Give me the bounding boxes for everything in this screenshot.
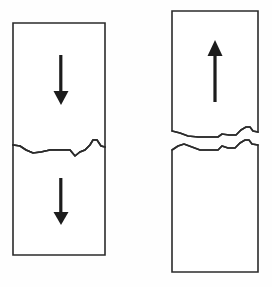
right-specimen-lower-piece — [172, 140, 258, 272]
fracture-diagram-svg — [0, 0, 272, 287]
right-specimen — [172, 11, 258, 272]
left-specimen — [13, 23, 105, 255]
up-arrow-shaft — [213, 52, 216, 102]
down-arrow-lower-shaft — [59, 178, 62, 214]
diagram-root — [0, 0, 272, 287]
left-specimen-lower-body — [13, 140, 105, 255]
left-specimen-upper-body — [13, 23, 105, 156]
down-arrow-upper-shaft — [59, 55, 62, 93]
